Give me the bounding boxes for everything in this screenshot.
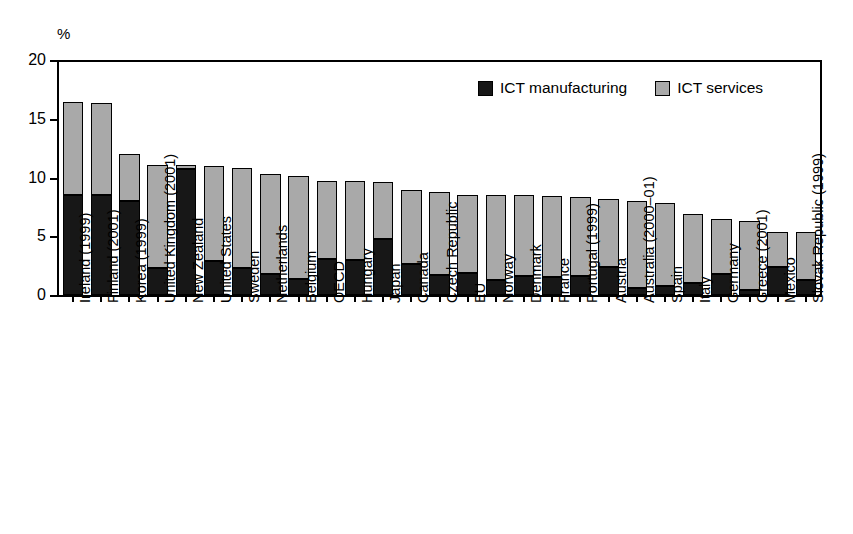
bar-segment-ict-services bbox=[598, 199, 619, 267]
x-tick-mark bbox=[354, 297, 356, 302]
x-axis-category-label: Slovak Republic (1999) bbox=[811, 153, 826, 303]
x-axis-category-label: Czech Republic bbox=[445, 201, 460, 303]
x-axis-category-label: Australia (2000–01) bbox=[642, 176, 657, 303]
y-tick-mark bbox=[50, 178, 57, 180]
x-axis-category-label: Hungary bbox=[360, 248, 375, 303]
x-axis-category-label: Denmark bbox=[529, 244, 544, 303]
x-axis-category-label: Mexico bbox=[783, 257, 798, 303]
y-axis: 05101520 bbox=[0, 60, 57, 297]
x-tick-mark bbox=[382, 297, 384, 302]
x-tick-mark bbox=[551, 297, 553, 302]
x-axis-category-label: EU bbox=[473, 283, 488, 303]
x-axis-category-label: Canada bbox=[416, 252, 431, 303]
x-tick-mark bbox=[777, 297, 779, 302]
y-tick-mark bbox=[50, 119, 57, 121]
x-tick-mark bbox=[579, 297, 581, 302]
x-tick-mark bbox=[326, 297, 328, 302]
x-tick-mark bbox=[523, 297, 525, 302]
y-axis-unit-label: % bbox=[57, 26, 71, 41]
x-tick-mark bbox=[749, 297, 751, 302]
bar-segment-ict-services bbox=[373, 182, 394, 238]
x-tick-mark bbox=[241, 297, 243, 302]
legend-label: ICT services bbox=[677, 80, 763, 96]
y-tick-mark bbox=[50, 60, 57, 62]
x-tick-mark bbox=[185, 297, 187, 302]
y-tick-label: 10 bbox=[28, 169, 46, 187]
x-tick-mark bbox=[128, 297, 130, 302]
x-axis-category-label: Portugal (1999) bbox=[585, 203, 600, 303]
bar-segment-ict-services bbox=[119, 154, 140, 201]
bar-segment-ict-services bbox=[91, 103, 112, 195]
x-tick-mark bbox=[410, 297, 412, 302]
x-tick-mark bbox=[720, 297, 722, 302]
x-axis-category-label: United Kingdom (2001) bbox=[163, 154, 178, 303]
legend-label: ICT manufacturing bbox=[500, 80, 627, 96]
legend-swatch-icon bbox=[655, 81, 670, 96]
x-tick-mark bbox=[664, 297, 666, 302]
legend-item-manufacturing: ICT manufacturing bbox=[478, 80, 627, 96]
y-tick-mark bbox=[50, 295, 57, 297]
chart-legend: ICT manufacturingICT services bbox=[478, 76, 763, 100]
x-tick-mark bbox=[636, 297, 638, 302]
y-tick-label: 20 bbox=[28, 51, 46, 69]
x-axis-category-label: Sweden bbox=[247, 251, 262, 303]
x-axis-category-label: OECD bbox=[332, 261, 347, 303]
bar-segment-ict-services bbox=[683, 214, 704, 283]
x-tick-mark bbox=[495, 297, 497, 302]
x-tick-mark bbox=[157, 297, 159, 302]
x-axis-category-label: Finland (2001) bbox=[106, 210, 121, 304]
x-tick-mark bbox=[298, 297, 300, 302]
x-axis-category-label: Japan bbox=[388, 263, 403, 303]
legend-swatch-icon bbox=[478, 81, 493, 96]
x-tick-mark bbox=[608, 297, 610, 302]
x-tick-mark bbox=[692, 297, 694, 302]
x-tick-mark bbox=[805, 297, 807, 302]
x-axis-category-label: New Zealand bbox=[191, 218, 206, 303]
legend-item-services: ICT services bbox=[655, 80, 763, 96]
x-axis-category-label: Italy bbox=[698, 276, 713, 303]
y-tick-label: 15 bbox=[28, 110, 46, 128]
x-tick-mark bbox=[269, 297, 271, 302]
x-tick-mark bbox=[467, 297, 469, 302]
x-axis-category-label: United States bbox=[219, 216, 234, 303]
x-axis-category-label: Germany bbox=[726, 243, 741, 303]
bar-segment-ict-services bbox=[317, 181, 338, 259]
x-axis-category-label: Netherlands bbox=[275, 225, 290, 303]
bar-segment-ict-services bbox=[63, 102, 84, 195]
x-tick-mark bbox=[100, 297, 102, 302]
x-axis-category-label: Belgium bbox=[304, 251, 319, 303]
x-tick-mark bbox=[213, 297, 215, 302]
x-axis-category-label: France bbox=[557, 258, 572, 303]
x-axis-category-label: Ireland (1999) bbox=[78, 213, 93, 303]
ict-share-stacked-bar-chart: % 05101520 Ireland (1999)Finland (2001)K… bbox=[0, 0, 853, 534]
x-axis-category-label: Norway bbox=[501, 254, 516, 303]
y-tick-label: 0 bbox=[37, 286, 46, 304]
x-axis-category-label: Greece (2001) bbox=[755, 210, 770, 304]
y-tick-mark bbox=[50, 236, 57, 238]
x-axis-category-label: Spain bbox=[670, 266, 685, 303]
x-axis-category-label: Korea (1999) bbox=[134, 218, 149, 303]
y-tick-label: 5 bbox=[37, 227, 46, 245]
x-axis-labels: Ireland (1999)Finland (2001)Korea (1999)… bbox=[57, 303, 822, 528]
bar-segment-ict-services bbox=[457, 195, 478, 273]
x-tick-mark bbox=[72, 297, 74, 302]
x-tick-mark bbox=[439, 297, 441, 302]
x-axis-category-label: Austria bbox=[614, 258, 629, 303]
